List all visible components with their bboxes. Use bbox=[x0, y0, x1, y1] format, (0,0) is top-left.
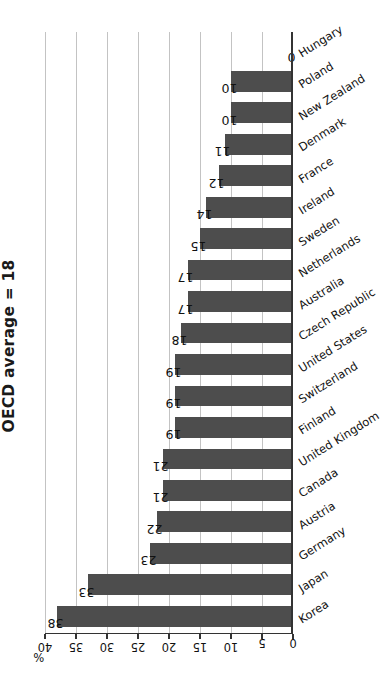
bar: 18 bbox=[181, 323, 293, 344]
bar-value-label: 18 bbox=[171, 333, 187, 346]
tick-label-text: 20 bbox=[162, 641, 177, 653]
bar-value-label: 19 bbox=[165, 427, 181, 440]
bar-value-label: 10 bbox=[221, 113, 237, 126]
bar: 17 bbox=[188, 291, 293, 312]
tick-label-text: 35 bbox=[69, 641, 84, 653]
bar-value-label: 19 bbox=[165, 365, 181, 378]
bar-value-label: 38 bbox=[47, 616, 63, 629]
bar: 22 bbox=[157, 511, 293, 532]
category-slot: Austria bbox=[293, 506, 373, 537]
category-slot: Switzerland bbox=[293, 380, 373, 411]
bar-slot: 17 bbox=[45, 254, 293, 285]
category-slot: United States bbox=[293, 349, 373, 380]
bar: 12 bbox=[219, 165, 293, 186]
bar-value-label: 12 bbox=[209, 176, 225, 189]
category-label: Japan bbox=[297, 568, 330, 595]
bar-value-label: 19 bbox=[165, 396, 181, 409]
tick-label-text: 5 bbox=[258, 637, 265, 649]
value-axis-line bbox=[45, 633, 293, 634]
value-axis-tick-label: 40 bbox=[39, 639, 51, 654]
category-slot: Finland bbox=[293, 412, 373, 443]
bar-value-label: 22 bbox=[147, 522, 163, 535]
bar-slot: 10 bbox=[45, 66, 293, 97]
category-slot: Korea bbox=[293, 601, 373, 632]
category-slot: Canada bbox=[293, 475, 373, 506]
bar-value-label: 33 bbox=[78, 585, 94, 598]
bar: 38 bbox=[57, 606, 293, 627]
category-slot: Sweden bbox=[293, 223, 373, 254]
value-axis-tick-label: 15 bbox=[194, 639, 206, 654]
bar-slot: 12 bbox=[45, 160, 293, 191]
bar: 11 bbox=[225, 134, 293, 155]
category-slot: Australia bbox=[293, 286, 373, 317]
bar: 14 bbox=[206, 197, 293, 218]
bar-slot: 11 bbox=[45, 129, 293, 160]
bar-slot: 19 bbox=[45, 380, 293, 411]
bar-value-label: 11 bbox=[215, 144, 231, 157]
bar-value-label: 17 bbox=[178, 270, 194, 283]
value-axis-tick-label: 35 bbox=[70, 639, 82, 654]
category-slot: Poland bbox=[293, 66, 373, 97]
bar-slot: 18 bbox=[45, 317, 293, 348]
value-axis-tick-label: 25 bbox=[132, 639, 144, 654]
tick-label-text: 25 bbox=[131, 641, 146, 653]
tick-label-text: 15 bbox=[193, 641, 208, 653]
tick-label-text: 0 bbox=[289, 637, 296, 649]
bar: 15 bbox=[200, 228, 293, 249]
bar-value-label: 15 bbox=[190, 239, 206, 252]
bar: 19 bbox=[175, 417, 293, 438]
category-slot: Ireland bbox=[293, 191, 373, 222]
value-axis-tick-label: 20 bbox=[163, 639, 175, 654]
category-slot: Hungary bbox=[293, 34, 373, 65]
value-axis-tick-label: 5 bbox=[256, 639, 268, 646]
chart-title: OECD average = 18 bbox=[0, 0, 18, 692]
bar-value-label: 21 bbox=[153, 459, 169, 472]
category-label: Korea bbox=[297, 599, 331, 626]
bar-value-label: 17 bbox=[178, 302, 194, 315]
category-slot: Netherlands bbox=[293, 254, 373, 285]
tick-label-text: 40 bbox=[38, 641, 53, 653]
bar-slot: 17 bbox=[45, 286, 293, 317]
bar-slot: 23 bbox=[45, 538, 293, 569]
bar: 33 bbox=[88, 574, 293, 595]
category-slot: New Zealand bbox=[293, 97, 373, 128]
bar-slot: 19 bbox=[45, 412, 293, 443]
bar-value-label: 14 bbox=[196, 207, 212, 220]
value-axis-tick-label: 10 bbox=[225, 639, 237, 654]
bar: 10 bbox=[231, 102, 293, 123]
bar: 17 bbox=[188, 260, 293, 281]
bar-slot: 38 bbox=[45, 601, 293, 632]
category-slot: United Kingdom bbox=[293, 443, 373, 474]
bar: 19 bbox=[175, 386, 293, 407]
tick-label-text: 30 bbox=[100, 641, 115, 653]
bar: 21 bbox=[163, 480, 293, 501]
bar-value-label: 10 bbox=[221, 81, 237, 94]
tick-label-text: 10 bbox=[224, 641, 239, 653]
category-label: Hungary bbox=[297, 24, 345, 60]
plot-area: 4035302520151050 38332322212119191918171… bbox=[45, 32, 293, 634]
bar-slot: 21 bbox=[45, 475, 293, 506]
category-slot: Japan bbox=[293, 569, 373, 600]
category-slot: Denmark bbox=[293, 129, 373, 160]
bar-slot: 10 bbox=[45, 97, 293, 128]
bar: 23 bbox=[150, 543, 293, 564]
bar-series: 3833232221211919191817171514121110100 bbox=[45, 32, 293, 634]
bar-slot: 33 bbox=[45, 569, 293, 600]
bar-slot: 21 bbox=[45, 443, 293, 474]
bar-slot: 19 bbox=[45, 349, 293, 380]
bar-slot: 0 bbox=[45, 34, 293, 65]
bar-slot: 22 bbox=[45, 506, 293, 537]
bar-value-label: 21 bbox=[153, 490, 169, 503]
category-slot: Czech Republic bbox=[293, 317, 373, 348]
category-axis-labels: KoreaJapanGermanyAustriaCanadaUnited Kin… bbox=[293, 32, 373, 634]
bar-slot: 15 bbox=[45, 223, 293, 254]
category-slot: Germany bbox=[293, 538, 373, 569]
category-slot: France bbox=[293, 160, 373, 191]
bar-slot: 14 bbox=[45, 191, 293, 222]
value-axis-tick-label: 30 bbox=[101, 639, 113, 654]
bar-value-label: 23 bbox=[140, 553, 156, 566]
bar: 10 bbox=[231, 71, 293, 92]
value-axis-tick-label: 0 bbox=[287, 639, 299, 646]
